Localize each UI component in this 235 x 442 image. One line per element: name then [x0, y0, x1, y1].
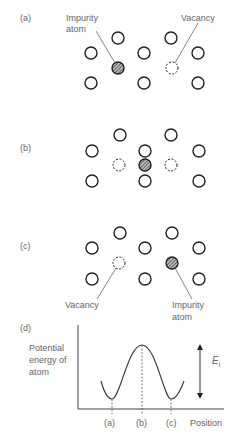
arrow-head-up-icon [197, 344, 203, 350]
lattice-panel-b [86, 129, 205, 187]
energy-symbol: E [212, 355, 219, 366]
energy-curve [101, 345, 184, 399]
atom [85, 77, 97, 89]
vacancy-leader-line [175, 23, 198, 63]
atom [114, 227, 126, 239]
impurity-label-a-line2: atom [66, 24, 86, 34]
vacancy-label-c: Vacancy [65, 300, 99, 310]
panel-label-a: (a) [20, 13, 31, 23]
atom [193, 175, 205, 187]
atom [86, 145, 98, 157]
tick-label-c: (c) [166, 418, 177, 428]
atom [139, 242, 151, 254]
vacancy [113, 257, 125, 269]
lattice-panel-a [85, 32, 204, 89]
impurity-leader-line [175, 268, 192, 299]
atom [114, 129, 126, 141]
energy-graph [78, 325, 224, 414]
impurity-label-c-line1: Impurity [172, 300, 204, 310]
arrow-head-down-icon [197, 393, 203, 399]
atom [138, 77, 150, 89]
lattice-panel-c [86, 227, 205, 285]
y-axis-label-line1: Potential [29, 343, 64, 354]
impurity-label-a-line1: Impurity [66, 13, 98, 23]
atom [165, 129, 177, 141]
y-axis-label-line3: atom [29, 367, 49, 378]
atom [86, 175, 98, 187]
impurity-atom [139, 159, 151, 171]
atom [112, 32, 124, 44]
vacancy-label-a: Vacancy [181, 13, 215, 23]
atom [85, 47, 97, 59]
impurity-atom [112, 62, 124, 74]
atom [193, 242, 205, 254]
panel-label-c: (c) [20, 241, 31, 251]
tick-label-a: (a) [104, 418, 115, 428]
x-axis-label: Position [190, 418, 222, 428]
panel-label-b: (b) [20, 143, 31, 153]
atom [192, 77, 204, 89]
vacancy-leader-line [97, 268, 116, 299]
atom [166, 227, 178, 239]
energy-subscript: i [219, 361, 221, 368]
panel-label-d: (d) [20, 323, 31, 333]
atom [139, 175, 151, 187]
atom [139, 145, 151, 157]
y-axis-label-line2: energy of [29, 355, 67, 366]
atom [86, 273, 98, 285]
impurity-label-c-line2: atom [172, 312, 192, 322]
vacancy [166, 62, 178, 74]
atom [139, 273, 151, 285]
atom [86, 242, 98, 254]
vacancy [165, 159, 177, 171]
atom [192, 47, 204, 59]
tick-label-b: (b) [136, 418, 147, 428]
atom [193, 273, 205, 285]
atom [138, 47, 150, 59]
atom [193, 145, 205, 157]
vacancy [113, 159, 125, 171]
atom [165, 32, 177, 44]
energy-label: Ei [212, 355, 220, 368]
impurity-atom [166, 257, 178, 269]
